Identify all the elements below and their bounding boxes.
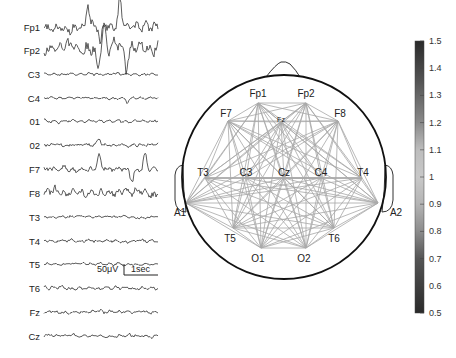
eeg-trace-t6 <box>44 285 158 290</box>
colorbar-tick-label: 0.8 <box>429 226 442 236</box>
electrode-t5: T5 <box>224 233 236 244</box>
electrode-t6: T6 <box>328 233 340 244</box>
colorbar-tick-label: 0.5 <box>429 308 442 318</box>
eeg-trace-02 <box>44 139 158 147</box>
eeg-connectivity-figure: Fp1Fp2C3C40102F7F8T3T4T5T6FzCz 50μV 1sec… <box>0 0 456 358</box>
channel-label: Cz <box>28 331 40 342</box>
scale-time-label: 1sec <box>131 264 151 274</box>
channel-label: Fp2 <box>24 45 40 56</box>
eeg-trace-01 <box>44 119 158 124</box>
electrode-t3: T3 <box>197 167 209 178</box>
connection-line <box>228 103 258 121</box>
colorbar-tick-label: 0.7 <box>429 254 442 264</box>
colorbar-tick-label: 0.6 <box>429 281 442 291</box>
eeg-trace-panel: Fp1Fp2C3C40102F7F8T3T4T5T6FzCz <box>24 0 158 342</box>
electrode-fp2: Fp2 <box>297 88 315 99</box>
eeg-trace-c4 <box>44 97 158 104</box>
right-ear-outline <box>382 165 393 212</box>
eeg-trace-cz <box>44 333 158 338</box>
channel-label: F7 <box>29 164 40 175</box>
channel-label: T3 <box>29 212 40 223</box>
scale-amplitude-label: 50μV <box>97 264 118 274</box>
connection-line <box>261 203 378 248</box>
eeg-trace-fz <box>44 309 158 314</box>
channel-label: Fz <box>29 307 40 318</box>
head-connectivity-map: Fp1Fp2F7F8FzT3C3CzC4T4A1A2T5T6O1O2 <box>174 62 403 279</box>
colorbar: 1.51.41.31.21.110.90.80.70.60.5 <box>415 36 442 318</box>
electrode-c4: C4 <box>315 167 328 178</box>
colorbar-tick-label: 1.3 <box>429 90 442 100</box>
colorbar-tick-label: 1.4 <box>429 63 442 73</box>
connection-line <box>258 103 261 248</box>
electrode-fp1: Fp1 <box>249 88 267 99</box>
colorbar-tick-label: 1.1 <box>429 145 442 155</box>
electrode-o2: O2 <box>297 253 311 264</box>
channel-label: T4 <box>29 236 40 247</box>
electrode-a2: A2 <box>390 207 403 218</box>
electrode-c3: C3 <box>240 167 253 178</box>
channel-label: C4 <box>28 93 40 104</box>
scale-bar: 50μV 1sec <box>97 264 158 275</box>
colorbar-tick-label: 0.9 <box>429 199 442 209</box>
eeg-trace-f7 <box>44 153 158 181</box>
channel-label: C3 <box>28 69 40 80</box>
eeg-trace-t3 <box>44 215 158 219</box>
channel-label: T5 <box>29 259 40 270</box>
electrode-t4: T4 <box>357 167 369 178</box>
electrode-cz: Cz <box>278 167 290 178</box>
electrode-o1: O1 <box>251 253 265 264</box>
channel-label: Fp1 <box>24 22 40 33</box>
electrode-f8: F8 <box>334 108 346 119</box>
channel-label: 01 <box>29 116 40 127</box>
eeg-trace-t4 <box>44 239 158 244</box>
colorbar-tick-label: 1 <box>429 172 434 182</box>
electrode-a1: A1 <box>174 207 187 218</box>
channel-label: F8 <box>29 188 40 199</box>
connection-line <box>246 178 378 203</box>
channel-label: 02 <box>29 140 40 151</box>
channel-label: T6 <box>29 283 40 294</box>
left-ear-outline <box>175 165 186 212</box>
electrode-f7: F7 <box>220 108 232 119</box>
eeg-trace-fp1 <box>44 0 158 44</box>
colorbar-tick-label: 1.5 <box>429 36 442 46</box>
electrode-fz: Fz <box>277 116 285 123</box>
eeg-trace-c3 <box>44 72 158 76</box>
colorbar-tick-label: 1.2 <box>429 118 442 128</box>
eeg-trace-f8 <box>44 185 158 198</box>
